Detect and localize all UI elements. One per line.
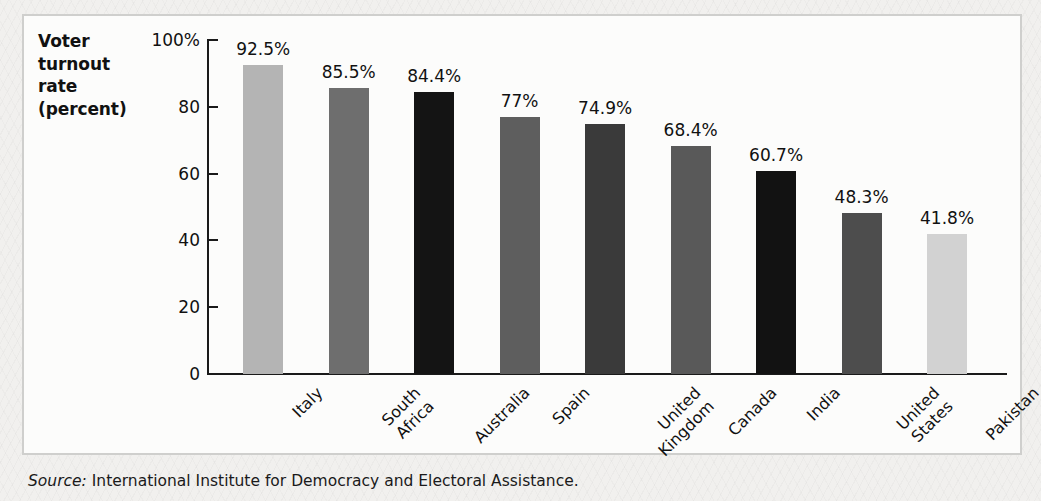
x-axis-label: India: [804, 384, 845, 425]
bar-value-label: 41.8%: [920, 210, 974, 227]
bar-value-label: 68.4%: [664, 122, 718, 139]
bar-rect: [414, 92, 454, 374]
bar: 84.4%: [414, 40, 454, 374]
x-axis-label: Canada: [724, 384, 780, 440]
x-axis-label-line-1: Italy: [289, 384, 327, 422]
x-axis-category-labels: ItalySouthAfricaAustraliaSpainUnitedKing…: [209, 378, 1004, 456]
bar-rect: [243, 65, 283, 374]
y-axis-tick-labels: 100%806040200: [110, 16, 200, 457]
y-axis-tick-label-60: 60: [116, 166, 200, 183]
bar-value-label: 85.5%: [322, 64, 376, 81]
y-axis-tick-label-100: 100%: [116, 32, 200, 49]
x-axis-label: Australia: [471, 384, 534, 447]
bar: 48.3%: [842, 40, 882, 374]
x-axis-label-line-1: Australia: [471, 384, 534, 447]
bar-rect: [842, 213, 882, 374]
x-axis-label: Spain: [549, 384, 594, 429]
x-axis-label: UnitedStates: [893, 384, 957, 448]
bar-rect: [585, 124, 625, 374]
x-axis-label: SouthAfrica: [378, 384, 438, 444]
chart-plot-container: Voter turnout rate (percent) 100%8060402…: [24, 16, 1020, 453]
bar-value-label: 84.4%: [407, 68, 461, 85]
x-axis-label: Italy: [289, 384, 327, 422]
bar-value-label: 92.5%: [236, 41, 290, 58]
bar: 68.4%: [671, 40, 711, 374]
bar: 77%: [500, 40, 540, 374]
bar-rect: [329, 88, 369, 374]
x-axis-label: UnitedKingdom: [642, 384, 719, 461]
bars-plot-area: 92.5%85.5%84.4%77%74.9%68.4%60.7%48.3%41…: [209, 40, 1004, 374]
bar-value-label: 48.3%: [835, 189, 889, 206]
bar: 60.7%: [756, 40, 796, 374]
x-axis-label-line-1: Spain: [549, 384, 594, 429]
x-axis-label-line-1: India: [804, 384, 845, 425]
y-axis-tick-label-40: 40: [116, 232, 200, 249]
bar-rect: [671, 146, 711, 374]
bar: 85.5%: [329, 40, 369, 374]
source-label: Source:: [28, 472, 87, 490]
bar-rect: [927, 234, 967, 374]
source-note: Source: International Institute for Demo…: [28, 474, 579, 490]
bar: 92.5%: [243, 40, 283, 374]
bar-value-label: 77%: [501, 93, 539, 110]
bar-rect: [500, 117, 540, 374]
bar-value-label: 60.7%: [749, 147, 803, 164]
bar: 74.9%: [585, 40, 625, 374]
x-axis-label-line-1: Canada: [724, 384, 780, 440]
bar: 41.8%: [927, 40, 967, 374]
source-text: International Institute for Democracy an…: [87, 472, 579, 490]
chart-figure-frame: Voter turnout rate (percent) 100%8060402…: [22, 14, 1022, 455]
bar-rect: [756, 171, 796, 374]
y-axis-tick-label-0: 0: [116, 366, 200, 383]
y-axis-tick-label-80: 80: [116, 99, 200, 116]
y-axis-tick-label-20: 20: [116, 299, 200, 316]
bar-value-label: 74.9%: [578, 100, 632, 117]
